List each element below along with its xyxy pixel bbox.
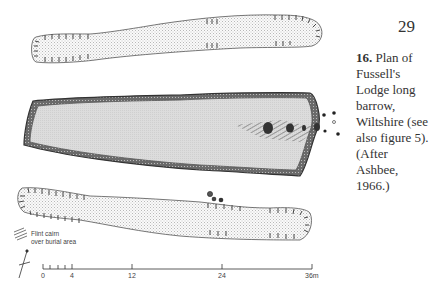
barrow-mound bbox=[24, 93, 340, 176]
scale-bar bbox=[43, 264, 312, 269]
page-number: 29 bbox=[398, 17, 415, 37]
legend-hatch-swatch bbox=[14, 228, 27, 240]
scale-tick-36m: 36m bbox=[305, 272, 319, 279]
legend-label: Flint cairn over burial area bbox=[31, 230, 76, 246]
scale-tick-4: 4 bbox=[70, 272, 74, 279]
legend-line-1: Flint cairn bbox=[31, 230, 76, 238]
figure-caption: 16. Plan of Fussell's Lodge long barrow,… bbox=[356, 50, 430, 194]
scale-tick-12: 12 bbox=[128, 272, 136, 279]
north-arrow-icon bbox=[19, 250, 30, 278]
caption-text: Plan of Fussell's Lodge long barrow, Wil… bbox=[356, 50, 429, 193]
legend-line-2: over burial area bbox=[31, 238, 76, 246]
scale-tick-0: 0 bbox=[41, 272, 45, 279]
north-ditch bbox=[32, 15, 322, 63]
figure-number: 16. bbox=[356, 50, 372, 65]
scale-tick-24: 24 bbox=[218, 272, 226, 279]
